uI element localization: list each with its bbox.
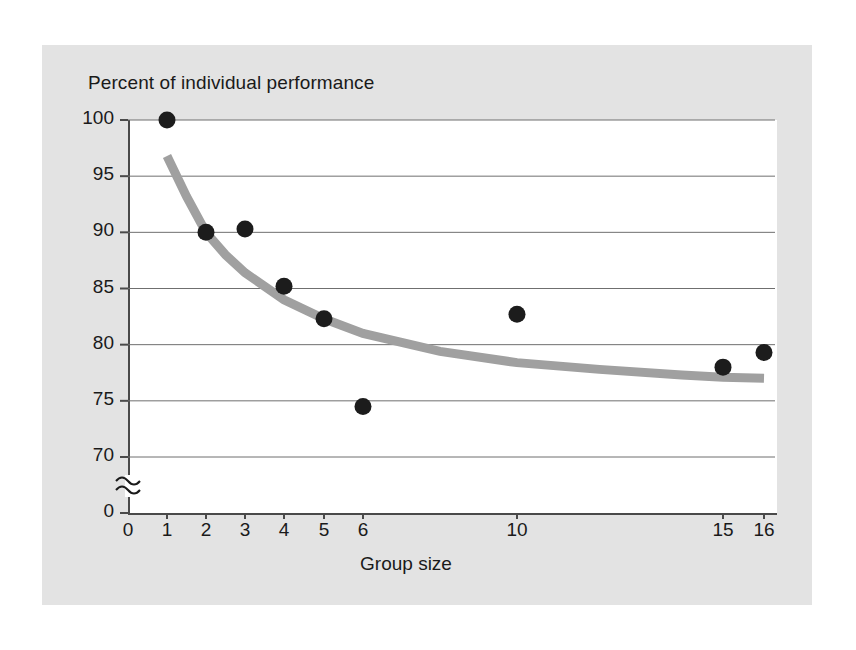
data-point-group-4 (276, 278, 293, 295)
data-point-group-1 (159, 112, 176, 129)
data-point-group-6 (355, 398, 372, 415)
data-point-group-15 (715, 359, 732, 376)
y-axis-tickmarks (120, 120, 128, 513)
data-points (159, 112, 773, 415)
x-axis-tickmarks (167, 513, 764, 519)
data-point-group-10 (509, 306, 526, 323)
data-point-group-2 (198, 224, 215, 241)
data-point-group-16 (756, 344, 773, 361)
data-point-group-5 (316, 310, 333, 327)
chart-graphics (0, 0, 856, 650)
figure-root: Percent of individual performance 100959… (0, 0, 856, 650)
y-axis-break-symbol (116, 475, 140, 497)
gridlines (128, 120, 775, 457)
data-point-group-3 (237, 220, 254, 237)
